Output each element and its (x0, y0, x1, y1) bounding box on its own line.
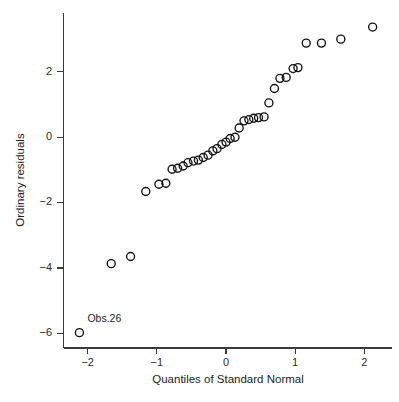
x-tick-label: −1 (151, 356, 164, 368)
y-tick-label: 2 (46, 65, 52, 77)
x-tick-label: 1 (292, 356, 298, 368)
data-point (265, 99, 273, 107)
data-point (260, 113, 268, 121)
y-axis-ticks: 20−2−4−6 (39, 65, 63, 338)
y-axis-title: Ordinary residuals (14, 133, 26, 227)
data-point (235, 124, 243, 132)
data-point (127, 252, 135, 260)
point-annotations: Obs.26 (87, 312, 121, 324)
x-tick-label: −2 (81, 356, 94, 368)
data-point (369, 23, 377, 31)
scatter-points (75, 23, 376, 337)
data-point (194, 156, 202, 164)
x-tick-label: 0 (223, 356, 229, 368)
y-tick-label: −6 (39, 326, 52, 338)
point-annotation-label: Obs.26 (87, 312, 121, 324)
data-point (302, 39, 310, 47)
qq-plot-figure: 20−2−4−6 −2−1012 Obs.26 Ordinary residua… (0, 0, 399, 402)
data-point (199, 153, 207, 161)
data-point (107, 260, 115, 268)
x-axis-title: Quantiles of Standard Normal (152, 373, 304, 385)
data-point (75, 329, 83, 337)
data-point (317, 39, 325, 47)
qq-plot-canvas: 20−2−4−6 −2−1012 Obs.26 Ordinary residua… (0, 0, 399, 402)
data-point (231, 133, 239, 141)
data-point (337, 35, 345, 43)
data-point (294, 64, 302, 72)
data-point (204, 151, 212, 159)
data-point (142, 187, 150, 195)
y-tick-label: −2 (39, 195, 52, 207)
y-tick-label: −4 (39, 261, 52, 273)
y-tick-label: 0 (46, 130, 52, 142)
x-tick-label: 2 (361, 356, 367, 368)
data-point (270, 85, 278, 93)
x-axis-ticks: −2−1012 (81, 348, 367, 368)
